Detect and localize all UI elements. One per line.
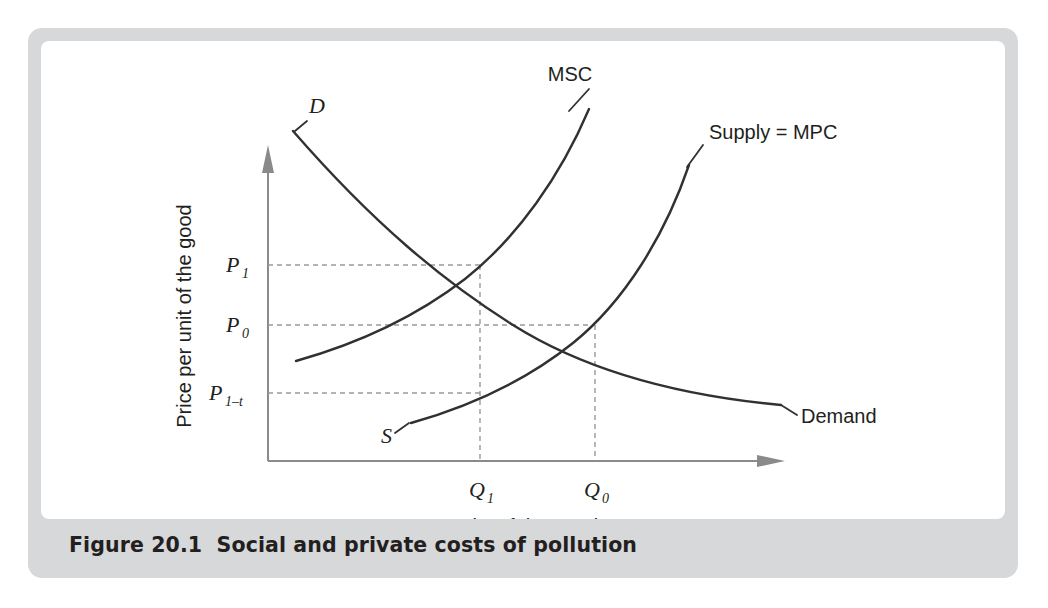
figure-caption: Figure 20.1 Social and private costs of …	[41, 533, 637, 557]
x-tick-q1-subscript: 1	[487, 491, 494, 506]
y-tick-p1-minus-t: P 1–t	[208, 380, 244, 409]
x-tick-q0-base: Q	[584, 477, 600, 502]
x-tick-q1-base: Q	[469, 477, 485, 502]
y-axis-arrow-icon	[262, 145, 274, 173]
figure-frame: MSC Supply = MPC Demand D S P 1 P 0 P 1–…	[28, 28, 1018, 578]
msc-curve	[296, 109, 589, 361]
x-tick-q0: Q 0	[584, 477, 609, 506]
y-tick-p0: P 0	[225, 312, 249, 341]
y-tick-p1-base: P	[225, 252, 239, 277]
y-tick-p1-subscript: 1	[242, 266, 249, 281]
y-tick-p0-subscript: 0	[242, 326, 249, 341]
mpc-supply-curve	[411, 165, 689, 423]
x-tick-q1: Q 1	[469, 477, 494, 506]
demand-label: Demand	[801, 405, 877, 427]
supply-curve-letter-label: S	[381, 423, 392, 448]
x-tick-q0-subscript: 0	[602, 491, 609, 506]
s-leader-line	[395, 423, 409, 433]
figure-caption-bar: Figure 20.1 Social and private costs of …	[41, 525, 1005, 565]
y-axis-title: Price per unit of the good	[173, 204, 195, 427]
msc-label: MSC	[548, 63, 592, 85]
supply-mpc-label: Supply = MPC	[709, 121, 837, 143]
y-tick-p1t-base: P	[208, 380, 222, 405]
msc-leader-line	[569, 89, 589, 111]
y-tick-p0-base: P	[225, 312, 239, 337]
x-axis-title: Quantity of the good	[418, 515, 598, 519]
demand-curve	[293, 131, 781, 405]
demand-leader-line	[781, 405, 797, 415]
economics-diagram: MSC Supply = MPC Demand D S P 1 P 0 P 1–…	[41, 41, 1005, 519]
axes-group	[262, 145, 785, 467]
demand-curve-letter-label: D	[308, 93, 325, 118]
figure-panel: MSC Supply = MPC Demand D S P 1 P 0 P 1–…	[41, 41, 1005, 519]
x-axis-arrow-icon	[757, 455, 785, 467]
mpc-leader-line	[687, 145, 703, 167]
curves-group	[293, 109, 781, 423]
y-tick-p1t-subscript: 1–t	[225, 394, 244, 409]
d-leader-line	[295, 121, 307, 131]
y-tick-p1: P 1	[225, 252, 249, 281]
